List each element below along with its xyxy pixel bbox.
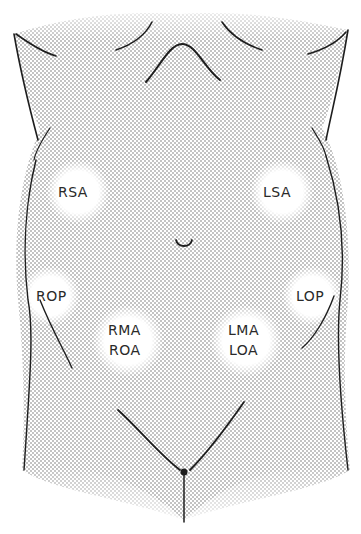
- label-rop: ROP: [36, 287, 67, 305]
- label-lop: LOP: [296, 287, 324, 305]
- abdomen-figure: [0, 0, 361, 534]
- abdomen-body: [14, 13, 350, 520]
- label-lsa: LSA: [263, 183, 291, 201]
- label-loa: LOA: [229, 341, 258, 359]
- label-lma: LMA: [228, 321, 259, 339]
- label-rma: RMA: [108, 321, 141, 339]
- abdomen-diagram: RSA LSA ROP LOP RMA ROA LMA LOA: [0, 0, 361, 534]
- label-roa: ROA: [109, 341, 141, 359]
- label-rsa: RSA: [58, 183, 88, 201]
